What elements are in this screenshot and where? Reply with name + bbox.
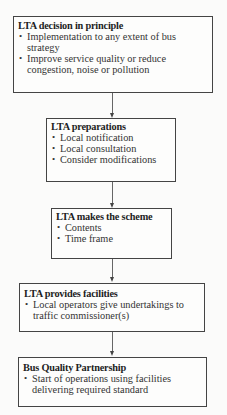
connector-line <box>112 182 113 203</box>
step-title: LTA provides facilities <box>24 288 200 299</box>
arrow-down-icon <box>110 351 114 356</box>
bullet-item: Local consultation <box>51 143 171 154</box>
bullet-item: Improve service quality or reduce conges… <box>18 53 208 75</box>
step-title: LTA makes the scheme <box>56 211 167 222</box>
step-bullets: Local operators give undertakings to tra… <box>24 299 200 321</box>
step-bullets: Contents Time frame <box>56 222 167 244</box>
step-box-bus-quality-partnership: Bus Quality Partnership Start of operati… <box>18 357 207 407</box>
bullet-item: Local notification <box>51 132 171 143</box>
step-bullets: Local notification Local consultation Co… <box>51 132 171 165</box>
step-box-makes-scheme: LTA makes the scheme Contents Time frame <box>51 208 172 259</box>
bullet-item: Contents <box>56 222 167 233</box>
step-bullets: Start of operations using facilities del… <box>23 373 202 395</box>
bullet-item: Time frame <box>56 233 167 244</box>
connector-line <box>112 259 113 278</box>
step-box-decision-in-principle: LTA decision in principle Implementation… <box>13 16 213 93</box>
arrow-down-icon <box>110 277 114 282</box>
step-title: Bus Quality Partnership <box>23 362 202 373</box>
bullet-item: Consider modifications <box>51 154 171 165</box>
step-box-preparations: LTA preparations Local notification Loca… <box>46 118 176 182</box>
bullet-item: Implementation to any extent of bus stra… <box>18 31 208 53</box>
bullet-item: Local operators give undertakings to tra… <box>24 299 200 321</box>
connector-line <box>112 93 113 114</box>
step-title: LTA decision in principle <box>18 20 208 31</box>
step-title: LTA preparations <box>51 121 171 132</box>
bullet-item: Start of operations using facilities del… <box>23 373 202 395</box>
connector-line <box>112 332 113 352</box>
step-box-provides-facilities: LTA provides facilities Local operators … <box>19 283 205 332</box>
step-bullets: Implementation to any extent of bus stra… <box>18 31 208 75</box>
